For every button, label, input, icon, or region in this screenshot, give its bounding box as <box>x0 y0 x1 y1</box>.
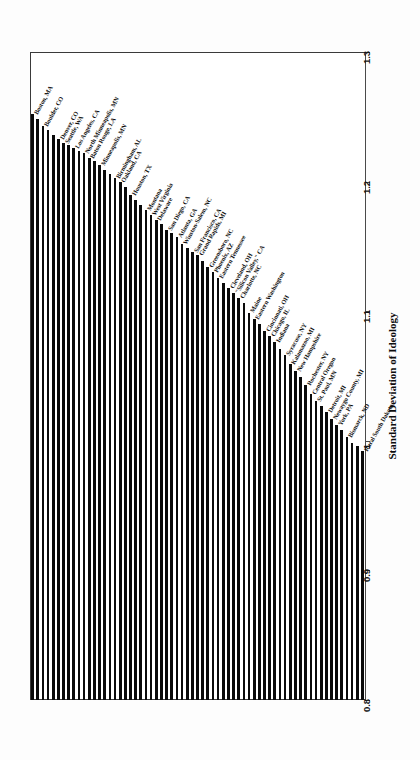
bar <box>222 283 225 700</box>
bar <box>248 313 251 701</box>
value-axis-line <box>365 52 366 700</box>
bar <box>299 377 302 700</box>
bar <box>346 437 349 700</box>
bar <box>109 174 112 700</box>
bar <box>268 336 271 700</box>
bar <box>206 267 209 700</box>
bar <box>129 195 132 700</box>
bar <box>176 237 179 700</box>
bar <box>98 165 101 700</box>
bar <box>62 143 65 700</box>
bar <box>351 443 354 700</box>
bar <box>258 324 261 700</box>
bar <box>139 205 142 700</box>
axis-tick-label: 1.3 <box>361 51 372 64</box>
bar <box>57 139 60 700</box>
bar <box>83 153 86 700</box>
bar <box>170 233 173 700</box>
bar <box>114 178 117 700</box>
bar <box>243 303 246 700</box>
bar <box>232 293 235 700</box>
axis-tick-label: 1.1 <box>361 310 372 323</box>
bar <box>93 161 96 700</box>
axis-tick-label: 0.9 <box>361 569 372 582</box>
bar <box>88 158 91 700</box>
bar <box>78 151 81 701</box>
bar <box>227 288 230 700</box>
bar <box>150 215 153 700</box>
bar <box>160 224 163 700</box>
bar <box>294 371 297 700</box>
axis-tick <box>365 441 370 442</box>
bar <box>304 385 307 700</box>
bar <box>217 278 220 700</box>
bar <box>325 412 328 700</box>
bar <box>31 114 34 700</box>
bar <box>124 187 127 700</box>
axis-tick-label: 1 <box>361 444 372 449</box>
bar <box>237 298 240 700</box>
bar <box>263 331 266 700</box>
bar <box>181 244 184 700</box>
bar <box>253 319 256 700</box>
bar <box>145 210 148 700</box>
bar <box>103 170 106 700</box>
bar <box>289 364 292 700</box>
bar <box>134 200 137 700</box>
axis-tick-label: 1.2 <box>361 180 372 193</box>
bar <box>273 342 276 700</box>
bar <box>340 430 343 700</box>
bar <box>315 401 318 700</box>
bar <box>47 130 50 700</box>
bar <box>36 119 39 700</box>
bar <box>52 135 55 700</box>
bar <box>284 355 287 700</box>
bar <box>201 261 204 700</box>
bar <box>119 182 122 700</box>
bar <box>165 230 168 700</box>
bar <box>72 148 75 700</box>
bar <box>310 394 313 700</box>
bar <box>279 349 282 700</box>
bar <box>212 272 215 700</box>
bar <box>186 248 189 700</box>
bar <box>335 425 338 700</box>
chart-figure: Boston, MABoulder, CODenver, COSeattle, … <box>0 0 420 760</box>
bar <box>356 446 359 700</box>
bar <box>155 220 158 700</box>
bar <box>320 406 323 700</box>
axis-title: Standard Deviation of Ideology <box>386 313 398 460</box>
axis-tick-label: 0.8 <box>361 699 372 712</box>
bar <box>196 255 199 700</box>
bar <box>42 126 45 700</box>
bar <box>67 145 70 700</box>
bar <box>330 419 333 700</box>
bar <box>191 252 194 700</box>
